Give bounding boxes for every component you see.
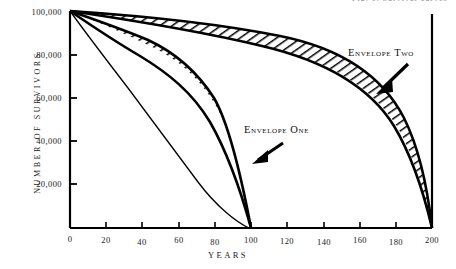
x-tick-label-60: 60 bbox=[174, 235, 183, 245]
survivorship-curve-figure: Fig. 1. Survival curves bbox=[0, 0, 456, 269]
x-tick-label-180: 180 bbox=[389, 237, 403, 247]
envelope-two-band bbox=[60, 5, 450, 235]
x-tick-label-20: 20 bbox=[101, 235, 110, 245]
chart-canvas bbox=[0, 0, 456, 269]
envelope-two-label: Envelope Two bbox=[348, 47, 414, 58]
x-tick-label-40: 40 bbox=[137, 237, 146, 247]
baseline-survival-curve bbox=[70, 11, 249, 228]
x-tick-label-100: 100 bbox=[244, 235, 258, 245]
x-tick-label-160: 160 bbox=[353, 235, 367, 245]
x-tick-label-140: 140 bbox=[317, 237, 331, 247]
x-tick-label-80: 80 bbox=[210, 237, 219, 247]
y-axis-title: NUMBER OF SURVIVORS bbox=[33, 38, 42, 208]
y-tick-label-100000: 100,000 bbox=[2, 7, 62, 17]
envelope-one-arrow bbox=[252, 143, 283, 164]
x-tick-label-120: 120 bbox=[280, 236, 294, 246]
envelope-two-arrow bbox=[376, 64, 408, 94]
x-axis-title: YEARS bbox=[168, 250, 288, 260]
x-tick-label-0: 0 bbox=[68, 234, 73, 244]
x-tick-label-200: 200 bbox=[425, 235, 439, 245]
envelope-one-label: Envelope One bbox=[244, 124, 309, 135]
